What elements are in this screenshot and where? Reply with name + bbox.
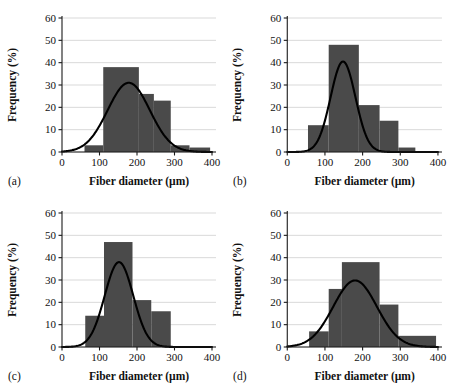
y-tick-label: 40 [45,56,57,68]
panel-b-svg: 01002003004000102030405060Fiber diameter… [225,0,451,195]
y-tick-label: 0 [51,146,57,158]
y-tick-label: 10 [45,123,57,135]
figure-multipanel-histograms: 01002003004000102030405060Fiber diameter… [0,0,451,390]
panel-a-svg: 01002003004000102030405060Fiber diameter… [0,0,225,195]
histogram-bar [309,331,329,347]
y-tick-label: 60 [45,207,57,219]
y-tick-label: 20 [270,101,282,113]
y-tick-label: 10 [45,318,57,330]
panel-a-plot: 01002003004000102030405060Fiber diameter… [0,0,225,195]
y-tick-label: 10 [270,123,282,135]
panel-letter-label: (a) [8,175,21,188]
y-tick-label: 60 [270,207,282,219]
x-tick-label: 200 [354,351,371,363]
x-tick-label: 400 [204,156,221,168]
y-tick-label: 50 [45,229,57,241]
x-tick-label: 300 [392,351,409,363]
y-tick-label: 10 [270,318,282,330]
x-tick-label: 100 [317,351,334,363]
histogram-bar [342,262,380,347]
y-axis-title: Frequency (%) [6,48,19,122]
panel-letter-label: (d) [233,370,247,383]
y-tick-label: 20 [45,296,57,308]
histogram-bar [104,242,133,347]
x-tick-label: 300 [392,156,409,168]
histogram-bar [151,311,171,347]
x-tick-label: 300 [166,351,183,363]
y-tick-label: 0 [276,146,282,158]
panel-d: 01002003004000102030405060Fiber diameter… [225,195,451,390]
histogram-bar [329,289,342,347]
panel-a: 01002003004000102030405060Fiber diameter… [0,0,225,195]
x-tick-label: 400 [204,351,221,363]
panel-c-svg: 01002003004000102030405060Fiber diameter… [0,195,225,390]
x-tick-label: 300 [166,156,183,168]
x-tick-label: 100 [317,156,334,168]
y-tick-label: 0 [51,341,57,353]
y-tick-label: 40 [270,56,282,68]
x-axis-title: Fiber diameter (µm) [89,175,189,188]
x-tick-label: 100 [91,156,108,168]
panel-letter-label: (b) [233,175,247,188]
y-tick-label: 20 [270,296,282,308]
x-tick-label: 0 [59,156,65,168]
y-tick-label: 30 [270,79,282,91]
x-tick-label: 200 [129,156,146,168]
y-tick-label: 60 [45,12,57,24]
histogram-bar [359,105,380,152]
y-axis-title: Frequency (%) [6,243,19,317]
x-axis-title: Fiber diameter (µm) [314,370,415,383]
y-tick-label: 30 [270,274,282,286]
y-tick-label: 50 [270,34,282,46]
x-tick-label: 400 [430,156,447,168]
panel-letter-label: (c) [8,370,21,383]
y-axis-title: Frequency (%) [231,243,244,317]
histogram-bar [380,121,399,152]
x-tick-label: 200 [354,156,371,168]
y-tick-label: 40 [270,251,282,263]
panel-d-plot: 01002003004000102030405060Fiber diameter… [225,195,451,390]
x-tick-label: 0 [285,156,291,168]
y-tick-label: 50 [45,34,57,46]
x-axis-title: Fiber diameter (µm) [89,370,189,383]
y-tick-label: 30 [45,274,57,286]
y-tick-label: 20 [45,101,57,113]
panel-c-plot: 01002003004000102030405060Fiber diameter… [0,195,225,390]
histogram-bar [154,101,171,152]
panel-b-plot: 01002003004000102030405060Fiber diameter… [225,0,451,195]
panel-c: 01002003004000102030405060Fiber diameter… [0,195,225,390]
x-tick-label: 200 [129,351,146,363]
x-axis-title: Fiber diameter (µm) [314,175,415,188]
panel-b: 01002003004000102030405060Fiber diameter… [225,0,451,195]
x-tick-label: 0 [59,351,65,363]
histogram-bar [85,145,104,152]
y-tick-label: 60 [270,12,282,24]
y-axis-title: Frequency (%) [231,48,244,122]
x-tick-label: 100 [91,351,108,363]
y-tick-label: 30 [45,79,57,91]
x-tick-label: 0 [285,351,291,363]
y-tick-label: 50 [270,229,282,241]
x-tick-label: 400 [430,351,447,363]
histogram-bar [85,316,104,347]
y-tick-label: 40 [45,251,57,263]
panel-d-svg: 01002003004000102030405060Fiber diameter… [225,195,451,390]
y-tick-label: 0 [276,341,282,353]
